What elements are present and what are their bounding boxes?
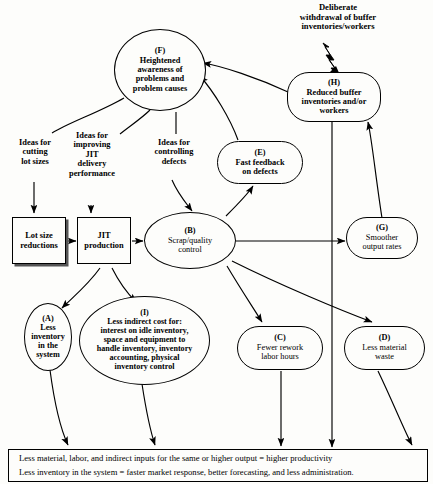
node-G-line: Smoother — [366, 233, 398, 242]
node-E-line: Fast feedback — [235, 158, 284, 167]
diagram-canvas: Deliberate withdrawal of buffer inventor… — [0, 0, 433, 484]
node-F-heightened-awareness[interactable]: (F) Heightened awareness of problems and… — [114, 29, 206, 111]
node-H-line: inventories and/or — [302, 97, 367, 106]
node-lot-line: Lot size — [25, 231, 53, 240]
node-D-line: Less material — [362, 343, 406, 352]
edge-label-ideas-controlling-defects: Ideas for controlling defects — [141, 138, 207, 166]
node-C-line: labor hours — [261, 352, 299, 361]
node-B-line: control — [178, 245, 202, 254]
node-E-fast-feedback[interactable]: (E) Fast feedback on defects — [217, 141, 303, 184]
node-F-line: problem causes — [133, 84, 187, 93]
node-I-line: inventory control — [115, 363, 175, 372]
node-B-line: Scrap/quality — [168, 236, 212, 245]
node-H-reduced-buffer[interactable]: (H) Reduced buffer inventories and/or wo… — [287, 72, 381, 122]
node-F-tag: (F) — [155, 47, 166, 56]
node-C-fewer-rework-labor-hours[interactable]: (C) Fewer rework labor hours — [237, 326, 323, 370]
node-B-tag: (B) — [184, 227, 195, 236]
edge-label-line: JIT — [61, 150, 123, 159]
node-F-line: awareness of — [137, 65, 182, 74]
node-A-line: Less — [40, 323, 55, 332]
node-H-line: Reduced buffer — [306, 88, 361, 97]
edge-label-line: controlling — [141, 147, 207, 156]
edge-label-line: Ideas for — [141, 138, 207, 147]
node-jit-line: JIT — [97, 231, 110, 240]
node-A-line: inventory — [31, 332, 65, 341]
edge-label-ideas-improving-jit: Ideas for improving JIT delivery perform… — [61, 131, 123, 178]
node-G-line: output rates — [363, 242, 402, 251]
edge-label-line: delivery — [61, 159, 123, 168]
edge-label-line: Ideas for — [4, 138, 66, 147]
node-D-less-material-waste[interactable]: (D) Less material waste — [344, 326, 425, 370]
node-B-scrap-quality-control[interactable]: (B) Scrap/quality control — [144, 212, 236, 269]
edge-label-line: cutting — [4, 147, 66, 156]
edge-label-line: Ideas for — [61, 131, 123, 140]
node-I-less-indirect-cost[interactable]: (I) Less indirect cost for: interest on … — [79, 296, 210, 385]
edge-label-line: lot sizes — [4, 157, 66, 166]
summary-line-1: Less material, labor, and indirect input… — [19, 452, 427, 466]
node-lot-line: reductions — [20, 241, 58, 250]
node-jit-production[interactable]: JIT production — [77, 217, 131, 264]
node-H-line: workers — [319, 106, 348, 115]
edge-label-line: defects — [141, 157, 207, 166]
node-A-line: in the — [38, 341, 58, 350]
edge-label-ideas-cutting-lot-sizes: Ideas for cutting lot sizes — [4, 138, 66, 166]
node-A-less-inventory[interactable]: (A) Less inventory in the system — [24, 303, 72, 371]
edge-label-line: improving — [61, 140, 123, 149]
node-H-tag: (H) — [328, 79, 340, 88]
node-E-line: on defects — [242, 167, 277, 176]
node-C-tag: (C) — [274, 334, 286, 343]
node-C-line: Fewer rework — [257, 343, 303, 352]
summary-line-2: Less inventory in the system = faster ma… — [19, 466, 427, 480]
external-input-line3: inventories/workers — [268, 22, 408, 32]
node-lot-size-reductions[interactable]: Lot size reductions — [12, 217, 66, 264]
node-A-line: system — [36, 350, 60, 359]
node-jit-line: production — [84, 241, 123, 250]
summary-box: Less material, labor, and indirect input… — [8, 449, 428, 482]
node-A-tag: (A) — [42, 315, 53, 324]
node-D-tag: (D) — [379, 334, 391, 343]
node-F-line: Heightened — [140, 56, 181, 65]
external-input-label: Deliberate withdrawal of buffer inventor… — [268, 3, 408, 32]
node-D-line: waste — [375, 352, 394, 361]
node-G-tag: (G) — [376, 224, 388, 233]
edge-label-line: performance — [61, 169, 123, 178]
node-F-line: problems and — [136, 74, 185, 83]
node-G-smoother-output-rates[interactable]: (G) Smoother output rates — [346, 217, 418, 259]
node-E-tag: (E) — [254, 149, 265, 158]
